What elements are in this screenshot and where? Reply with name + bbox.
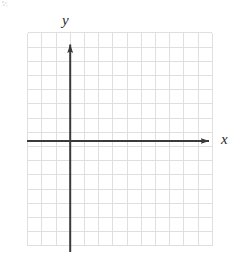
coordinate-plane-svg	[0, 0, 239, 261]
x-axis-label: x	[221, 132, 228, 147]
y-axis-label: y	[62, 13, 69, 28]
coordinate-grid-figure: y x	[0, 0, 239, 261]
grid-vertical-lines	[28, 33, 213, 246]
grid-horizontal-lines	[28, 33, 213, 246]
scan-speckle-artifact	[2, 1, 9, 7]
